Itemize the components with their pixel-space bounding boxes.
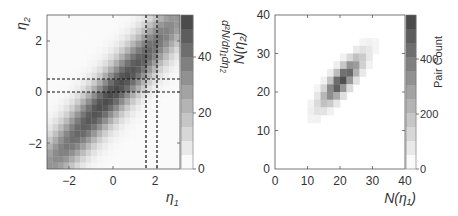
- right-xtick: 30: [366, 174, 380, 188]
- right-ytick: 40: [257, 8, 271, 22]
- right-cbar-label: Pair Count: [432, 36, 444, 88]
- left-ytick: −2: [28, 137, 42, 151]
- left-cbar-tick: 20: [198, 106, 212, 120]
- right-xtick: 10: [301, 174, 315, 188]
- left-cbar-tick: 40: [198, 50, 212, 64]
- right-xtick: 0: [272, 174, 279, 188]
- right-heatmap-panel: 0 10 20 30 40 40 30 20 10 0 200 400 0 N(…: [230, 0, 458, 216]
- left-cbar-label: d²N/dη₁dη₂: [220, 20, 230, 74]
- left-xtick: −2: [62, 174, 76, 188]
- left-heatmap-panel: −2 0 2 2 0 −2 40 20 0 η1 η2 d²N/dη₁dη₂: [0, 0, 230, 216]
- left-ylabel: η2: [13, 17, 32, 30]
- right-cbar-tick: 200: [420, 108, 438, 120]
- right-xtick: 20: [333, 174, 347, 188]
- right-heatmap-svg: 0 10 20 30 40 40 30 20 10 0 200 400 0 N(…: [230, 0, 458, 216]
- right-ytick: 20: [257, 85, 271, 99]
- right-ylabel: N(η₂): [231, 32, 247, 65]
- right-ytick: 30: [257, 47, 271, 61]
- right-xtick: 40: [398, 174, 412, 188]
- right-cbar-tick: 0: [420, 163, 426, 175]
- right-ytick: 10: [257, 124, 271, 138]
- right-heatmap-cells: [308, 38, 380, 123]
- left-xtick: 0: [110, 174, 117, 188]
- left-ytick: 0: [35, 85, 42, 99]
- left-colorbar: [181, 15, 193, 169]
- left-ytick: 2: [35, 34, 42, 48]
- left-xlabel: η1: [166, 189, 179, 208]
- right-colorbar: [406, 15, 416, 169]
- left-xtick: 2: [152, 174, 159, 188]
- right-ytick: 0: [263, 162, 270, 176]
- left-cbar-tick: 0: [198, 162, 205, 176]
- left-heatmap-svg: −2 0 2 2 0 −2 40 20 0 η1 η2 d²N/dη₁dη₂: [0, 0, 230, 216]
- right-xlabel: N(η₁): [384, 190, 416, 206]
